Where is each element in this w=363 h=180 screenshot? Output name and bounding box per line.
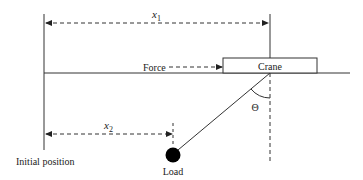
crane-load-diagram: x1 Crane Force Θ x2 Load Initial positio…: [0, 0, 363, 180]
x2-label: x2: [103, 119, 113, 134]
theta-arc: [251, 89, 270, 98]
x1-label: x1: [151, 8, 161, 23]
initial-position-label: Initial position: [16, 156, 75, 167]
crane-label: Crane: [258, 61, 282, 72]
load-label: Load: [163, 166, 184, 177]
force-label: Force: [143, 62, 166, 73]
load-mass: [166, 148, 181, 163]
theta-label: Θ: [251, 102, 258, 113]
